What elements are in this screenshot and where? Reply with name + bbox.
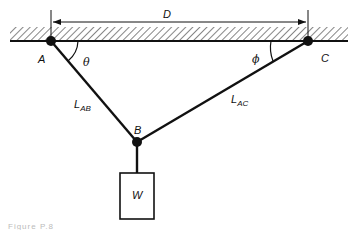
angle-phi-label: ϕ bbox=[252, 53, 260, 66]
figure-caption: Figure P.8 bbox=[8, 222, 54, 230]
point-c-label: C bbox=[321, 52, 329, 64]
joint-a bbox=[46, 36, 56, 46]
cable-ac-label: LAC bbox=[231, 93, 248, 108]
angle-theta-label: θ bbox=[83, 56, 90, 69]
angle-phi-arc bbox=[270, 41, 273, 61]
dimension-label: D bbox=[163, 8, 171, 20]
cable-ab bbox=[51, 41, 137, 142]
point-b-label: B bbox=[134, 124, 141, 136]
ceiling bbox=[10, 27, 348, 41]
joint-c bbox=[303, 36, 313, 46]
diagram-canvas: D W A B C θ ϕ LAB LAC bbox=[0, 0, 360, 230]
point-a-label: A bbox=[37, 53, 45, 65]
weight-label: W bbox=[132, 189, 144, 201]
cable-ab-label: LAB bbox=[74, 98, 91, 113]
joint-b bbox=[132, 137, 142, 147]
cable-ac bbox=[137, 41, 308, 142]
angle-theta-arc bbox=[68, 41, 78, 61]
